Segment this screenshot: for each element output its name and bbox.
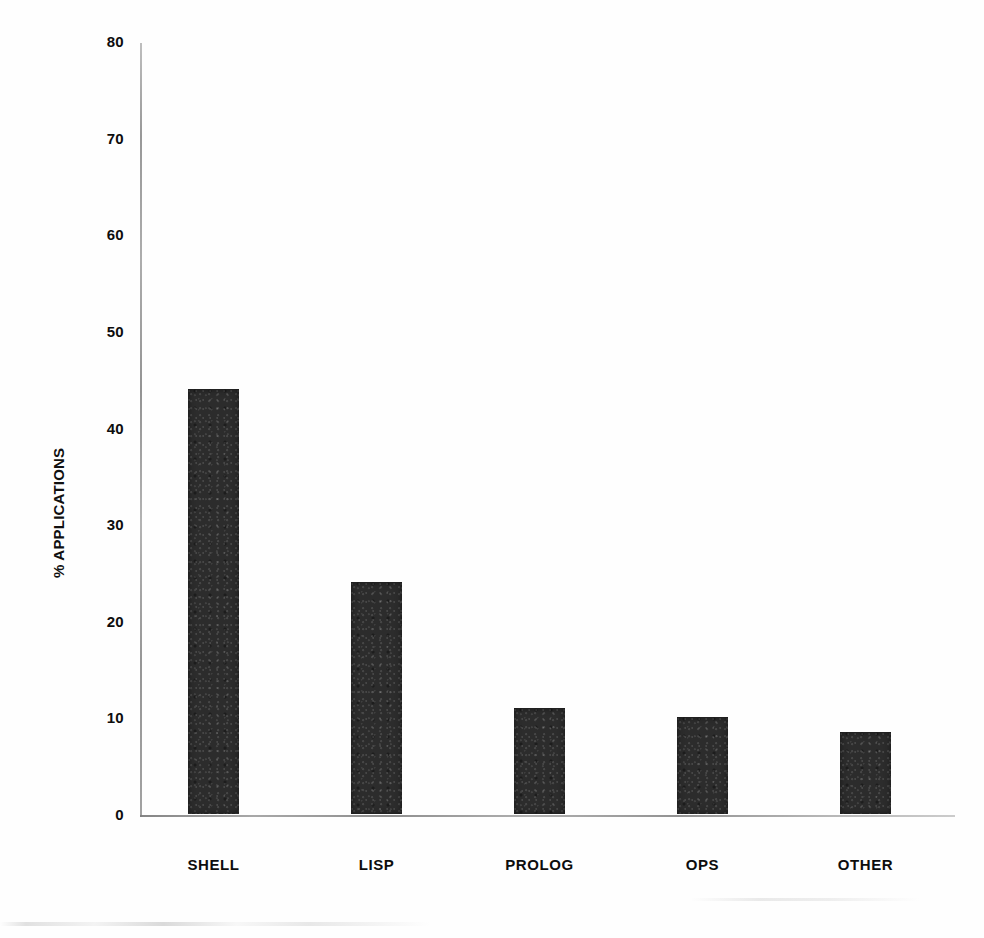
bar [514,708,565,814]
y-tick-label: 40 [64,420,124,440]
y-tick-label: 80 [64,33,124,53]
y-tick-label: 0 [64,806,124,826]
y-axis-tick-labels: 01020304050607080 [58,43,124,816]
y-tick-label: 30 [64,516,124,536]
x-axis-tick-labels: SHELLLISPPROLOGOPSOTHER [140,856,955,882]
y-tick-label: 60 [64,226,124,246]
bar [188,389,239,814]
x-tick-label: SHELL [134,856,294,873]
bar [840,732,891,814]
x-tick-label: OPS [623,856,783,873]
bar [677,717,728,814]
bar-chart-figure: % APPLICATIONS 01020304050607080 SHELLLI… [0,0,984,938]
x-tick-label: LISP [297,856,457,873]
x-axis-line [140,815,955,817]
scan-artifact [690,898,920,901]
y-tick-label: 20 [64,613,124,633]
x-tick-label: OTHER [786,856,946,873]
plot-area [140,43,955,816]
y-tick-label: 10 [64,709,124,729]
y-axis-line [140,43,142,817]
bar [351,582,402,814]
x-tick-label: PROLOG [460,856,620,873]
y-tick-label: 70 [64,130,124,150]
y-tick-label: 50 [64,323,124,343]
scan-artifact [0,922,430,926]
